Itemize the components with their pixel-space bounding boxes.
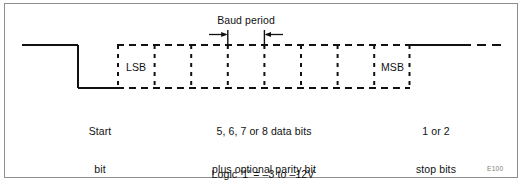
stop-bits-caption: 1 or 2 stop bits logic '1' — [396, 100, 476, 185]
voltage-level-legend: Logic '1' = –3 to –12V Logic '0' = +3 to… — [180, 142, 346, 185]
baud-period-arrows — [209, 32, 283, 37]
start-bit-caption: Start bit logic '0' — [62, 100, 138, 185]
legend-logic-one: Logic '1' = –3 to –12V — [180, 168, 346, 181]
baud-arrow-left-head — [221, 32, 227, 37]
baud-period-label: Baud period — [196, 14, 296, 26]
data-bits-caption-line-1: 5, 6, 7 or 8 data bits — [175, 125, 353, 138]
stop-bits-caption-line-1: 1 or 2 — [396, 125, 476, 138]
stop-bits-caption-line-2: stop bits — [396, 163, 476, 176]
lsb-label: LSB — [126, 61, 166, 73]
serial-data-frame-figure: Baud period LSB MSB Start bit logic '0' … — [0, 0, 525, 185]
start-bit-caption-line-2: bit — [62, 163, 138, 176]
baud-arrow-right-head — [265, 32, 271, 37]
msb-label: MSB — [381, 61, 421, 73]
figure-reference-code: E100 — [487, 163, 503, 175]
start-bit-caption-line-1: Start — [62, 125, 138, 138]
